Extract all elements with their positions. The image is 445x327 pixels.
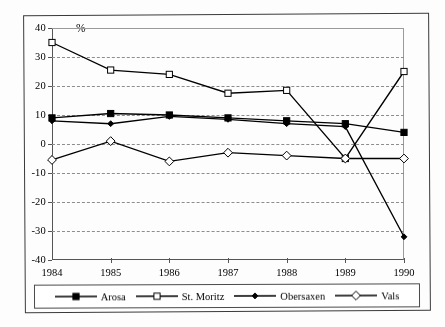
x-tick-mark <box>404 258 405 263</box>
legend-marker-filled-square-icon <box>55 289 97 303</box>
legend-item-label: Vals <box>381 290 399 301</box>
series-obersaxen <box>49 114 407 240</box>
y-tick-label: 0 <box>41 139 46 150</box>
x-tick-label: 1984 <box>42 268 63 279</box>
y-tick-label: -10 <box>31 168 46 179</box>
y-tick-label: 20 <box>35 81 46 92</box>
data-point-marker <box>401 129 407 135</box>
legend-marker-open-square-icon <box>136 289 178 303</box>
x-tick-label: 1987 <box>218 268 239 279</box>
x-tick-label: 1989 <box>335 268 356 279</box>
data-point-marker <box>224 148 233 157</box>
data-point-marker <box>282 151 291 160</box>
chart-legend: ArosaSt. MoritzObersaxenVals <box>34 283 420 308</box>
legend-marker-filled-diamond-icon <box>234 289 276 303</box>
legend-item-obersaxen[interactable]: Obersaxen <box>234 289 325 303</box>
data-point-marker <box>166 71 172 77</box>
data-point-marker <box>284 87 290 93</box>
y-tick-label: -40 <box>31 255 46 266</box>
data-point-marker <box>165 157 174 166</box>
plot-area: % 403020100-10-20-30-40 1984198519861987… <box>52 28 404 260</box>
y-tick-label: -30 <box>31 226 46 237</box>
data-point-marker <box>108 121 114 127</box>
x-tick-label: 1985 <box>100 268 121 279</box>
legend-item-label: Arosa <box>101 291 126 302</box>
legend-item-vals[interactable]: Vals <box>335 288 399 302</box>
legend-item-st-moritz[interactable]: St. Moritz <box>136 289 225 303</box>
data-point-marker <box>49 39 55 45</box>
y-tick-label: 40 <box>35 23 46 34</box>
y-tick-label: -20 <box>31 197 46 208</box>
x-tick-label: 1986 <box>159 268 180 279</box>
series-layer <box>52 28 404 260</box>
legend-item-label: Obersaxen <box>280 290 325 301</box>
data-point-marker <box>108 67 114 73</box>
x-tick-label: 1990 <box>394 268 415 279</box>
x-tick-label: 1988 <box>276 268 297 279</box>
data-point-marker <box>401 68 407 74</box>
data-point-marker <box>225 90 231 96</box>
data-point-marker <box>106 137 115 146</box>
data-point-marker <box>108 110 114 116</box>
series-line <box>52 116 404 236</box>
legend-marker-open-diamond-icon <box>335 288 377 302</box>
chart-page: % 403020100-10-20-30-40 1984198519861987… <box>0 0 445 327</box>
series-line <box>52 43 404 159</box>
y-tick-label: 10 <box>35 110 46 121</box>
y-tick-label: 30 <box>35 52 46 63</box>
legend-item-arosa[interactable]: Arosa <box>55 289 126 303</box>
legend-item-label: St. Moritz <box>182 291 225 302</box>
y-tick-mark <box>48 260 52 261</box>
series-vals <box>48 137 409 166</box>
